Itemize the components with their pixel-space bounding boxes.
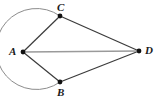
- vertex-dot-a: [21, 50, 26, 55]
- geometry-figure: A B C D: [0, 0, 161, 104]
- vertex-dot-c: [58, 14, 63, 19]
- vertex-label-a: A: [9, 46, 16, 57]
- vertex-label-b: B: [57, 87, 64, 98]
- segment-b-d: [60, 51, 139, 82]
- segment-a-c: [23, 16, 60, 52]
- vertex-dot-b: [58, 80, 63, 85]
- segment-c-d: [60, 16, 139, 51]
- vertex-label-d: D: [145, 45, 153, 56]
- segment-a-b: [23, 52, 60, 82]
- segment-a-d: [23, 51, 139, 52]
- vertex-label-c: C: [57, 2, 64, 13]
- vertex-dot-d: [137, 49, 142, 54]
- figure-canvas: [0, 0, 161, 104]
